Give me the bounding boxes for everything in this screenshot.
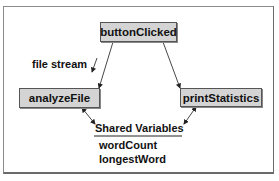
file-stream-indicator-arrow (92, 58, 97, 72)
node-printstatistics: printStatistics (180, 88, 262, 107)
arrow-buttonclicked-to-analyzefile (99, 42, 113, 88)
node-buttonclicked: buttonClicked (100, 22, 177, 42)
node-label: printStatistics (183, 92, 260, 104)
arrow-buttonclicked-to-printstatistics (163, 42, 180, 88)
shared-variable-longestword: longestWord (99, 153, 166, 165)
node-label: analyzeFile (29, 92, 90, 104)
arrow-printstatistics-shared (184, 107, 196, 124)
node-analyzefile: analyzeFile (19, 88, 100, 108)
node-label: buttonClicked (100, 26, 177, 38)
shared-variable-wordcount: wordCount (99, 139, 157, 151)
edge-label-file-stream: file stream (32, 58, 87, 70)
arrow-analyzefile-shared (82, 108, 95, 124)
shared-variables-title: Shared Variables (95, 122, 184, 134)
